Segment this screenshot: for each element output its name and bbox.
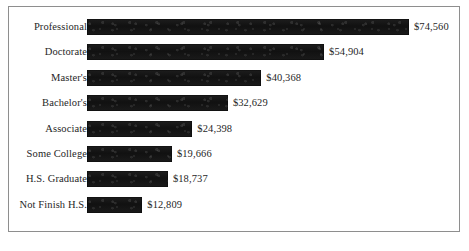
category-label: Professional [34,19,87,35]
bar-row: H.S. Graduate$18,737 [9,171,461,187]
chart-figure: Professional$74,560Doctorate$54,904Maste… [0,0,469,251]
bar-value-label: $32,629 [233,95,268,111]
category-label: H.S. Graduate [26,171,87,187]
category-label: Some College [27,146,87,162]
bar [87,121,192,137]
bar-row: Some College$19,666 [9,146,461,162]
bar [87,44,324,60]
category-label: Master's [51,70,87,86]
category-label: Doctorate [45,44,87,60]
bar-row: Not Finish H.S.$12,809 [9,197,461,213]
bar-row: Master's$40,368 [9,70,461,86]
bar [87,146,172,162]
bar-row: Doctorate$54,904 [9,44,461,60]
bar-value-label: $40,368 [266,70,301,86]
bar-value-label: $19,666 [177,146,212,162]
bar [87,95,228,111]
bar-row: Professional$74,560 [9,19,461,35]
bar [87,70,261,86]
bar [87,197,142,213]
category-label: Bachelor's [42,95,87,111]
bar [87,171,168,187]
bar-value-label: $24,398 [197,121,232,137]
bars-area: Professional$74,560Doctorate$54,904Maste… [9,7,461,233]
bar-row: Associate$24,398 [9,121,461,137]
bar-row: Bachelor's$32,629 [9,95,461,111]
bar-value-label: $12,809 [147,197,182,213]
bar [87,19,409,35]
bar-value-label: $74,560 [414,19,449,35]
category-label: Not Finish H.S. [20,197,87,213]
bar-value-label: $18,737 [173,171,208,187]
category-label: Associate [45,121,87,137]
bar-value-label: $54,904 [329,44,364,60]
plot-frame: Professional$74,560Doctorate$54,904Maste… [8,6,460,232]
